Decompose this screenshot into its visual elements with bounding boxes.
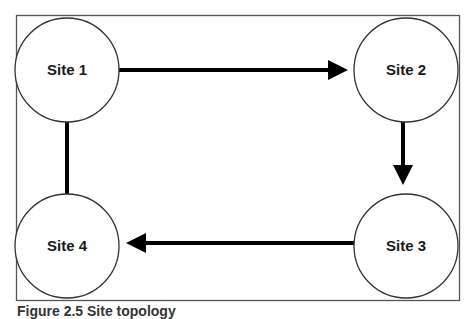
- node-site3: Site 3: [354, 194, 458, 298]
- node-label: Site 4: [47, 237, 88, 254]
- node-label: Site 2: [386, 61, 426, 78]
- node-site2: Site 2: [354, 18, 458, 122]
- figure-caption: Figure 2.5 Site topology: [17, 303, 176, 319]
- node-site4: Site 4: [15, 194, 119, 298]
- node-label: Site 3: [386, 237, 426, 254]
- node-site1: Site 1: [15, 18, 119, 122]
- node-label: Site 1: [47, 61, 87, 78]
